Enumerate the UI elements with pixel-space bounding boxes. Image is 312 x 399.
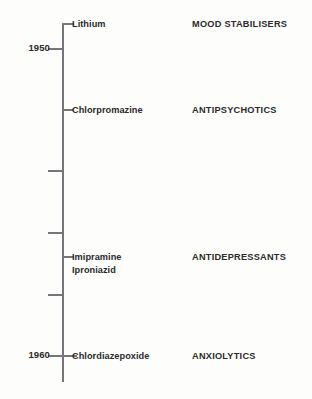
timeline-axis — [62, 23, 64, 382]
year-tick-1950 — [48, 48, 63, 50]
event-drug-lithium: Lithium — [72, 18, 106, 31]
event-class-mood-stabilisers: MOOD STABILISERS — [192, 18, 287, 31]
minor-tick-1 — [48, 170, 63, 172]
event-class-anxiolytics: ANXIOLYTICS — [192, 350, 256, 363]
minor-tick-3 — [48, 294, 63, 296]
event-drug-chlordiazepoxide: Chlordiazepoxide — [72, 350, 149, 363]
event-drug-chlorpromazine: Chlorpromazine — [72, 104, 143, 117]
minor-tick-2 — [48, 232, 63, 234]
event-class-antipsychotics: ANTIPSYCHOTICS — [192, 104, 277, 117]
drug-discovery-timeline-figure: 1950 1960 Lithium MOOD STABILISERS Chlor… — [0, 0, 312, 399]
event-drug-imipramine-iproniazid: Imipramine Iproniazid — [72, 251, 122, 276]
year-label-1950: 1950 — [28, 43, 50, 53]
event-class-antidepressants: ANTIDEPRESSANTS — [192, 251, 286, 264]
year-label-1960: 1960 — [28, 350, 50, 360]
